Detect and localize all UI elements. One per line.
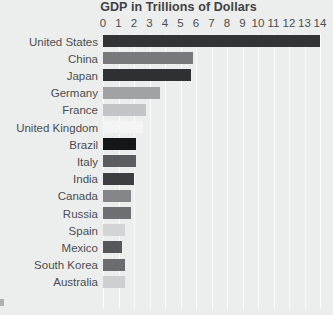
bar-row: United Kingdom [0, 119, 333, 136]
bar-row: Brazil [0, 136, 333, 153]
gdp-bar-chart: GDP in Trillions of Dollars 012345678910… [0, 0, 333, 315]
bar-spain [103, 224, 125, 236]
category-label-south-korea: South Korea [0, 258, 98, 272]
bar-track [103, 67, 333, 84]
x-tick-label-13: 13 [298, 16, 311, 30]
bar-united-states [103, 35, 320, 47]
bar-row: Mexico [0, 239, 333, 256]
bar-track [103, 50, 333, 67]
category-label-france: France [0, 103, 98, 117]
bar-track [103, 153, 333, 170]
bar-row: Italy [0, 153, 333, 170]
bar-row: Russia [0, 205, 333, 222]
bar-row: Germany [0, 85, 333, 102]
bar-united-kingdom [103, 121, 143, 133]
category-label-india: India [0, 172, 98, 186]
category-label-germany: Germany [0, 86, 98, 100]
category-label-united-kingdom: United Kingdom [0, 121, 98, 135]
x-tick-label-2: 2 [131, 16, 137, 30]
bar-track [103, 222, 333, 239]
category-label-italy: Italy [0, 155, 98, 169]
bar-australia [103, 276, 125, 288]
bar-track [103, 102, 333, 119]
bar-japan [103, 69, 191, 81]
x-tick-label-10: 10 [252, 16, 265, 30]
bar-row: United States [0, 33, 333, 50]
x-tick-label-3: 3 [146, 16, 152, 30]
bar-track [103, 85, 333, 102]
bar-row: Canada [0, 188, 333, 205]
bar-row: China [0, 50, 333, 67]
bar-row: India [0, 171, 333, 188]
x-tick-label-5: 5 [177, 16, 183, 30]
bar-track [103, 119, 333, 136]
bar-italy [103, 155, 136, 167]
bar-germany [103, 87, 160, 99]
bar-row: South Korea [0, 257, 333, 274]
bar-china [103, 52, 193, 64]
x-tick-label-14: 14 [314, 16, 327, 30]
x-tick-label-0: 0 [100, 16, 106, 30]
bar-russia [103, 207, 131, 219]
category-label-united-states: United States [0, 35, 98, 49]
x-tick-label-9: 9 [239, 16, 245, 30]
bar-track [103, 257, 333, 274]
x-tick-label-11: 11 [268, 16, 280, 30]
x-tick-label-6: 6 [193, 16, 199, 30]
bar-rows: United StatesChinaJapanGermanyFranceUnit… [0, 33, 333, 309]
bar-row: Spain [0, 222, 333, 239]
bar-india [103, 173, 134, 185]
bar-track [103, 33, 333, 50]
category-label-mexico: Mexico [0, 241, 98, 255]
bar-mexico [103, 241, 122, 253]
category-label-russia: Russia [0, 207, 98, 221]
bar-track [103, 188, 333, 205]
bar-track [103, 136, 333, 153]
bar-row: France [0, 102, 333, 119]
bar-brazil [103, 138, 136, 150]
category-label-china: China [0, 52, 98, 66]
category-label-brazil: Brazil [0, 138, 98, 152]
bar-france [103, 104, 146, 116]
x-axis-tick-labels: 01234567891011121314 [0, 16, 333, 32]
bar-track [103, 274, 333, 291]
x-tick-label-8: 8 [224, 16, 230, 30]
bar-track [103, 171, 333, 188]
bar-row: Australia [0, 274, 333, 291]
corner-artifact [0, 299, 4, 306]
x-tick-label-4: 4 [162, 16, 168, 30]
bar-row: Japan [0, 67, 333, 84]
category-label-spain: Spain [0, 224, 98, 238]
bar-track [103, 205, 333, 222]
x-tick-label-12: 12 [283, 16, 296, 30]
bar-canada [103, 190, 131, 202]
x-tick-label-7: 7 [208, 16, 214, 30]
bar-south-korea [103, 259, 125, 271]
category-label-canada: Canada [0, 189, 98, 203]
bar-track [103, 239, 333, 256]
x-tick-label-1: 1 [115, 16, 121, 30]
chart-title: GDP in Trillions of Dollars [0, 0, 333, 15]
category-label-japan: Japan [0, 69, 98, 83]
category-label-australia: Australia [0, 275, 98, 289]
